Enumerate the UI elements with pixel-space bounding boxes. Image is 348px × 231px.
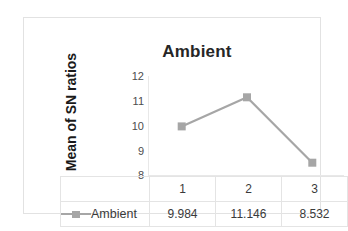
series-line-ambient xyxy=(182,97,313,162)
data-point-marker xyxy=(178,122,186,130)
y-tick-label: 12 xyxy=(122,70,144,83)
y-tick-label: 11 xyxy=(122,95,144,108)
data-table: 1 2 3 Ambient 9.984 11.146 8.532 xyxy=(60,176,348,227)
chart-frame: Ambient Mean of SN ratios 12 11 10 9 8 1… xyxy=(23,17,321,214)
legend-cell: Ambient xyxy=(61,202,150,227)
legend-series-icon xyxy=(61,209,91,219)
table-row-categories: 1 2 3 xyxy=(61,177,348,202)
line-series-svg xyxy=(149,76,345,176)
data-point-marker xyxy=(308,159,316,167)
plot-area xyxy=(148,76,344,176)
category-cell: 3 xyxy=(282,177,348,202)
data-point-marker xyxy=(243,93,251,101)
table-corner-cell xyxy=(61,177,150,202)
y-tick-label: 9 xyxy=(122,145,144,158)
y-axis-title: Mean of SN ratios xyxy=(62,42,80,182)
category-cell: 2 xyxy=(216,177,282,202)
value-cell: 8.532 xyxy=(282,202,348,227)
legend-label: Ambient xyxy=(91,202,137,226)
table-row-values: Ambient 9.984 11.146 8.532 xyxy=(61,202,348,227)
value-cell: 11.146 xyxy=(216,202,282,227)
y-tick-label: 10 xyxy=(122,120,144,133)
category-cell: 1 xyxy=(150,177,216,202)
value-cell: 9.984 xyxy=(150,202,216,227)
